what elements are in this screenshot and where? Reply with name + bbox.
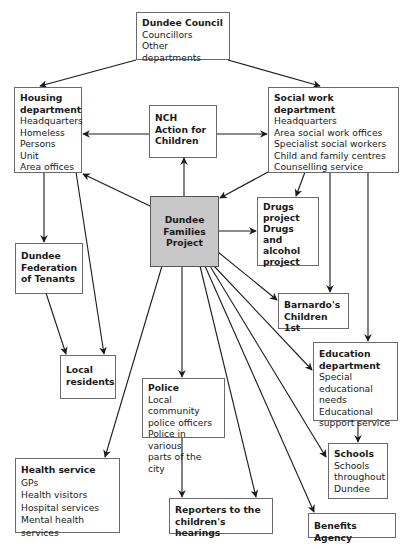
node-item: police officers [148,417,219,429]
node-title: Drugs [263,201,313,212]
node-item: Other departments [142,40,224,63]
node-item: Local community [148,394,219,417]
node-title: Families [163,226,206,238]
node-title: Action for [155,124,211,136]
node-title: project [263,212,313,223]
node-title: residents [66,376,110,388]
node-item: Headquarters [20,115,76,127]
node-title: department [319,360,392,372]
node-title: Drugs and [263,223,313,245]
node-reporters-childrens-hearings: Reporters to the children's hearings [169,498,273,534]
node-title: Dundee [165,214,205,226]
node-title: Social work department [274,92,393,115]
node-title: project [263,256,313,267]
node-barnardos-children-1st: Barnardo's Children 1st [278,293,349,329]
node-dundee-families-project: Dundee Families Project [150,196,219,267]
node-item: support service [319,417,392,429]
node-item: Homeless [20,127,76,139]
node-title: Children 1st [284,311,343,334]
node-title: Benefits Agency [314,520,390,543]
node-title: department [20,104,76,116]
node-title: Children [155,135,211,147]
node-title: Housing [20,92,76,104]
node-item: Counselling service [274,161,393,173]
node-nch-action-for-children: NCH Action for Children [149,105,217,158]
node-item: Dundee [334,483,382,495]
node-title: Schools [334,448,382,460]
node-item: Headquarters [274,115,393,127]
node-title: Dundee [21,250,77,262]
node-item: throughout [334,471,382,483]
node-dundee-federation-of-tenants: Dundee Federation of Tenants [15,243,83,294]
node-item: Child and family centres [274,150,393,162]
node-item: Hospital services [21,502,114,515]
node-local-residents: Local residents [60,355,116,399]
node-item: Schools [334,460,382,472]
node-item: educational needs [319,383,392,406]
node-title: Police [148,382,219,394]
node-title: Local [66,364,110,376]
organisation-diagram: Dundee Council Councillors Other departm… [0,0,411,549]
node-dundee-council: Dundee Council Councillors Other departm… [136,12,230,60]
node-item: Health visitors [21,489,114,502]
node-item: Area offices [20,161,76,173]
node-housing-department: Housing department Headquarters Homeless… [14,87,82,173]
node-item: Police in various [148,428,219,451]
node-social-work-department: Social work department Headquarters Area… [268,87,399,173]
node-title: Project [166,237,203,249]
node-education-department: Education department Special educational… [313,342,398,421]
node-title: children's hearings [175,516,267,539]
node-benefits-agency: Benefits Agency [308,513,396,538]
node-title: Federation [21,262,77,274]
node-item: Area social work offices [274,127,393,139]
node-title: Reporters to the [175,504,267,516]
node-item: Persons Unit [20,138,76,161]
node-item: Educational [319,406,392,418]
node-schools: Schools Schools throughout Dundee [328,443,388,499]
node-item: Special [319,371,392,383]
node-item: parts of the city [148,451,219,474]
node-title: Education [319,348,392,360]
node-item: Specialist social workers [274,138,393,150]
node-item: GPs [21,477,114,490]
node-title: Barnardo's [284,299,343,311]
node-item: Mental health services [21,514,114,539]
node-title: NCH [155,112,211,124]
node-title: alcohol [263,245,313,256]
node-title: of Tenants [21,273,77,285]
node-health-service: Health service GPs Health visitors Hospi… [15,458,120,533]
node-title: Health service [21,464,114,477]
node-police: Police Local community police officers P… [142,378,225,438]
node-title: Dundee Council [142,17,224,29]
node-item: Councillors [142,29,224,41]
node-drugs-project: Drugs project Drugs and alcohol project [257,197,319,266]
